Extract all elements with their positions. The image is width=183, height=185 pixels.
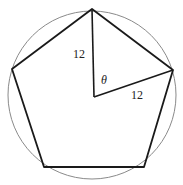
diagram-canvas: 12 12 θ: [0, 0, 183, 185]
radius-top: [92, 9, 94, 97]
radius-top-label: 12: [73, 47, 85, 61]
angle-theta-label: θ: [101, 73, 107, 87]
pentagon-diagram: 12 12 θ: [0, 0, 183, 185]
radius-right-label: 12: [131, 88, 143, 102]
